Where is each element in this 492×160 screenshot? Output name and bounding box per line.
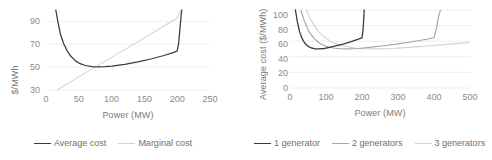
x-tick-right-0: 0	[275, 92, 305, 102]
x-tick-left-1: 50	[64, 94, 94, 104]
x-tick-left-2: 100	[97, 94, 127, 104]
legend-label-marginal-cost: Marginal cost	[138, 138, 192, 148]
y-tick-right-5: 100	[266, 10, 288, 20]
legend-label-average-cost: Average cost	[54, 138, 106, 148]
legend-left: Average cost Marginal cost	[34, 138, 204, 148]
series-1-generator	[295, 10, 364, 49]
y-tick-left-2: 70	[18, 39, 40, 49]
y-tick-left-1: 50	[18, 62, 40, 72]
y-tick-right-4: 80	[266, 25, 288, 35]
legend-label-3-generators: 3 generators	[435, 138, 486, 148]
series-average-cost-left	[56, 10, 182, 67]
legend-swatch-line-icon	[332, 143, 349, 144]
y-tick-right-3: 60	[266, 39, 288, 49]
series-2-generators	[301, 10, 441, 49]
x-tick-right-3: 300	[383, 92, 413, 102]
plot-svg-right	[290, 10, 470, 88]
legend-right: 1 generator 2 generators 3 generators	[254, 138, 492, 148]
legend-item-average-cost[interactable]: Average cost	[34, 138, 106, 148]
x-tick-left-3: 150	[129, 94, 159, 104]
plot-svg-left	[46, 10, 210, 90]
x-tick-right-1: 100	[311, 92, 341, 102]
x-tick-right-4: 400	[419, 92, 449, 102]
x-tick-left-4: 200	[162, 94, 192, 104]
legend-swatch-line-icon	[118, 143, 135, 144]
legend-swatch-line-icon	[34, 143, 51, 144]
figure-container: $/MWh 30 50 70 90 0 50 100 150 200 250 P…	[0, 0, 492, 160]
series-3-generators	[306, 10, 470, 49]
legend-swatch-line-icon	[415, 143, 432, 144]
chart-panel-right: Average cost ($/MWh) 0 20 40 60 80 100	[246, 0, 492, 160]
legend-label-1-generator: 1 generator	[274, 138, 320, 148]
x-tick-left-0: 0	[31, 94, 61, 104]
x-tick-right-5: 500	[455, 92, 485, 102]
y-tick-left-3: 90	[18, 16, 40, 26]
x-axis-title-left: Power (MW)	[46, 110, 210, 120]
series-marginal-cost-left	[57, 10, 180, 90]
legend-item-1-generator[interactable]: 1 generator	[254, 138, 320, 148]
y-tick-right-2: 40	[266, 54, 288, 64]
legend-label-2-generators: 2 generators	[352, 138, 403, 148]
y-tick-right-1: 20	[266, 68, 288, 78]
plot-area-left	[46, 10, 210, 90]
legend-swatch-line-icon	[254, 143, 271, 144]
x-axis-title-right: Power (MW)	[290, 108, 470, 118]
x-tick-left-5: 250	[195, 94, 225, 104]
chart-panel-left: $/MWh 30 50 70 90 0 50 100 150 200 250 P…	[0, 0, 246, 160]
x-tick-right-2: 200	[347, 92, 377, 102]
legend-item-3-generators[interactable]: 3 generators	[415, 138, 486, 148]
plot-area-right	[290, 10, 470, 88]
legend-item-marginal-cost[interactable]: Marginal cost	[118, 138, 192, 148]
legend-item-2-generators[interactable]: 2 generators	[332, 138, 403, 148]
